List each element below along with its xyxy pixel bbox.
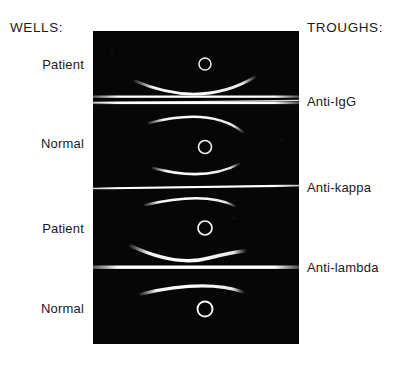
trough-label-anti-lambda: Anti-lambda (307, 260, 379, 275)
gel-plate (93, 31, 299, 344)
trough-label-anti-igg: Anti-IgG (307, 94, 356, 109)
trough-label-anti-kappa: Anti-kappa (307, 180, 371, 195)
trough-anti-lambda (93, 266, 299, 269)
gel-plate-image (93, 31, 299, 344)
well-label-patient-1: Patient (0, 57, 84, 72)
wells-column-header: WELLS: (10, 20, 63, 35)
well-label-normal-1: Normal (0, 136, 84, 151)
well-label-patient-2: Patient (0, 221, 84, 236)
immunoelectrophoresis-figure: WELLS: TROUGHS: Patient Normal Patient N… (0, 0, 414, 365)
troughs-column-header: TROUGHS: (307, 20, 383, 35)
well-label-normal-2: Normal (0, 301, 84, 316)
